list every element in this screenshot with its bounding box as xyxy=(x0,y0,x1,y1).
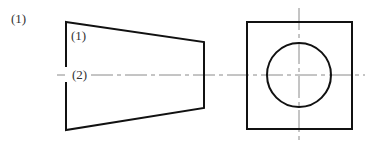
problem-number-label: (1) xyxy=(11,11,26,26)
drawing-canvas: (1) (1) (2) xyxy=(0,0,365,141)
surface-label-2: (2) xyxy=(72,67,87,82)
surface-label-1: (1) xyxy=(71,28,86,43)
